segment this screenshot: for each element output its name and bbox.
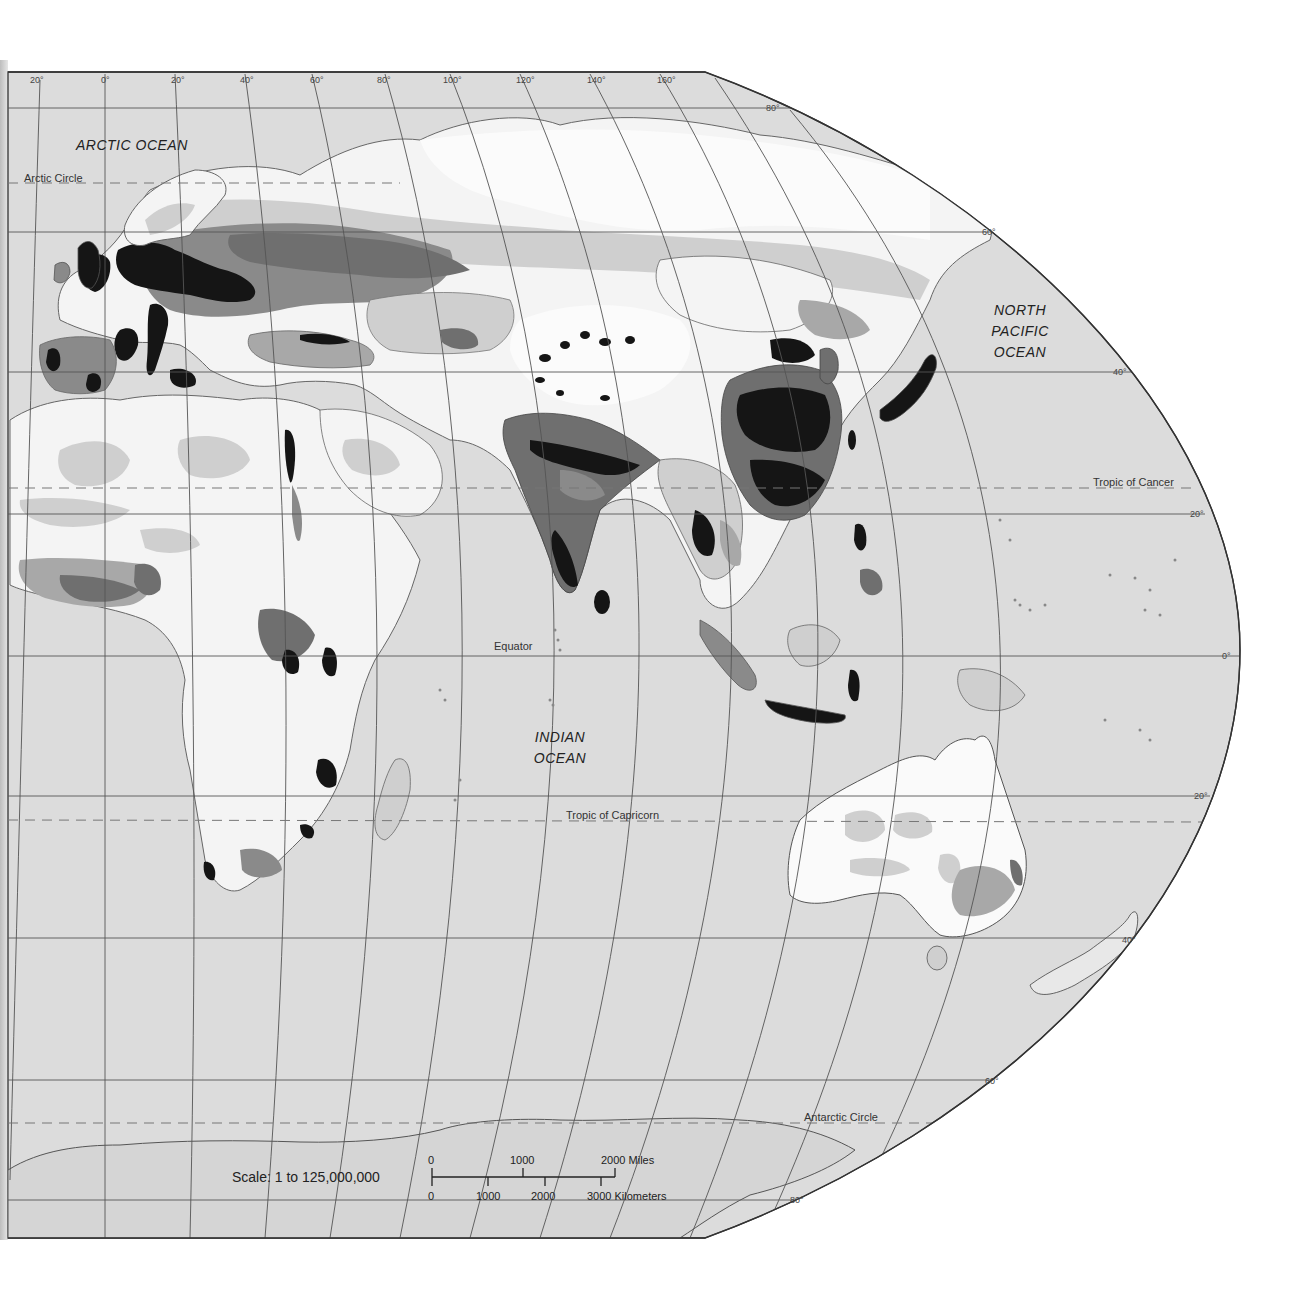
- sri-lanka: [594, 590, 610, 614]
- scale-km-2000: 2000: [531, 1190, 555, 1202]
- lat-label-80s: 80°: [790, 1195, 804, 1205]
- lon-label-20w: 20°: [30, 75, 44, 85]
- antarctic-circle-label: Antarctic Circle: [804, 1111, 878, 1123]
- lat-label-60n: 60°: [982, 227, 996, 237]
- tropic-of-cancer-label: Tropic of Cancer: [1093, 476, 1174, 488]
- scale-km-0: 0: [428, 1190, 434, 1202]
- scale-miles-0: 0: [428, 1154, 434, 1166]
- lat-label-60s: 60°: [985, 1076, 999, 1086]
- lat-label-20n: 20°: [1190, 509, 1204, 519]
- ocean-label-line: PACIFIC: [990, 321, 1050, 342]
- scale-km-3000: 3000 Kilometers: [587, 1190, 667, 1202]
- lon-label-0: 0°: [101, 75, 110, 85]
- scale-miles-1000: 1000: [510, 1154, 534, 1166]
- lon-label-60e: 60°: [310, 75, 324, 85]
- lon-label-160e: 160°: [657, 75, 676, 85]
- lon-label-120e: 120°: [516, 75, 535, 85]
- lat-label-20s: 20°: [1194, 791, 1208, 801]
- tropic-of-capricorn-label: Tropic of Capricorn: [566, 809, 659, 821]
- ocean-label-north-pacific: NORTH PACIFIC OCEAN: [990, 300, 1050, 363]
- world-map: [0, 0, 1307, 1315]
- ocean-label-line: INDIAN: [528, 727, 592, 748]
- ocean-label-line: OCEAN: [528, 748, 592, 769]
- lon-label-20e: 20°: [171, 75, 185, 85]
- lat-label-80n: 80°: [766, 103, 780, 113]
- ocean-label-line: OCEAN: [990, 342, 1050, 363]
- lon-label-140e: 140°: [587, 75, 606, 85]
- ocean-label-arctic: ARCTIC OCEAN: [76, 135, 188, 156]
- lat-label-40n: 40°: [1113, 367, 1127, 377]
- arctic-circle-label: Arctic Circle: [24, 172, 83, 184]
- ocean-label-indian: INDIAN OCEAN: [528, 727, 592, 769]
- equator-label: Equator: [494, 640, 533, 652]
- scale-km-1000: 1000: [476, 1190, 500, 1202]
- lat-label-40s: 40°: [1122, 935, 1136, 945]
- scale-miles-2000: 2000 Miles: [601, 1154, 654, 1166]
- lat-label-0: 0°: [1222, 651, 1231, 661]
- lon-label-80e: 80°: [377, 75, 391, 85]
- lon-label-100e: 100°: [443, 75, 462, 85]
- lon-label-40e: 40°: [240, 75, 254, 85]
- tasmania: [927, 946, 947, 970]
- scale-ratio: Scale: 1 to 125,000,000: [232, 1169, 380, 1185]
- ocean-label-line: NORTH: [990, 300, 1050, 321]
